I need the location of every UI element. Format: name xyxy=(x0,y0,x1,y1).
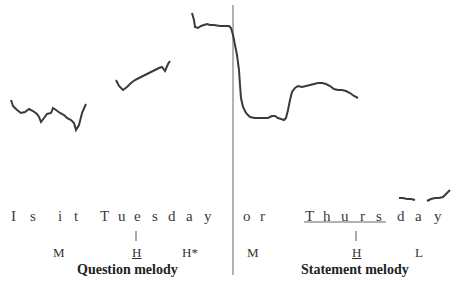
letter: s xyxy=(30,208,36,224)
intonation-diagram: I s i t T u e s d a y o r T h u r s d a … xyxy=(0,0,459,291)
tone-label-m-question: M xyxy=(53,246,65,260)
statement-melody-caption: Statement melody xyxy=(301,262,409,278)
letter: h xyxy=(323,208,331,224)
letter: s xyxy=(152,208,158,224)
pitch-contour-day-low-2 xyxy=(427,190,450,201)
letter: a xyxy=(415,208,422,224)
pitch-contour-sday-or xyxy=(192,13,358,120)
letter: u xyxy=(118,208,126,224)
letter: y xyxy=(204,208,212,224)
tone-label-l-statement: L xyxy=(415,246,423,260)
letter: T xyxy=(305,208,314,224)
pitch-contour-plot xyxy=(0,0,459,291)
pitch-contour-tue xyxy=(116,61,170,90)
letter: a xyxy=(186,208,193,224)
question-melody-caption: Question melody xyxy=(77,262,178,278)
letter: T xyxy=(100,208,109,224)
letter: r xyxy=(360,208,365,224)
letter: u xyxy=(341,208,349,224)
pitch-contour-day-low-1 xyxy=(399,198,415,200)
letter: e xyxy=(134,208,141,224)
letter: s xyxy=(376,208,382,224)
letter: i xyxy=(58,208,62,224)
letter: o xyxy=(243,208,251,224)
letter: r xyxy=(260,208,265,224)
tone-label-m-statement: M xyxy=(247,246,259,260)
tone-label-h-statement: H xyxy=(352,246,361,260)
tone-label-hstar-question: H* xyxy=(182,246,198,260)
letter: t xyxy=(74,208,78,224)
letter: d xyxy=(168,208,176,224)
letter: I xyxy=(11,208,16,224)
letter: d xyxy=(397,208,405,224)
letter: y xyxy=(434,208,442,224)
tone-label-h-question: H xyxy=(132,246,141,260)
pitch-contour-is-it xyxy=(11,100,86,130)
